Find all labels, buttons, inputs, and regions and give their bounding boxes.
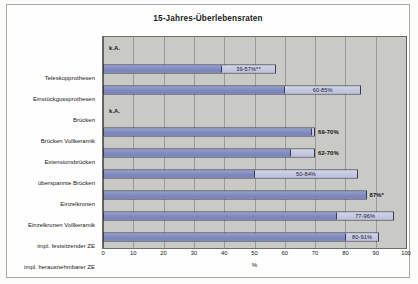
x-tick-label: 100: [401, 250, 411, 256]
bar-segment-low: [104, 65, 221, 72]
category-label: Brücken: [73, 117, 95, 123]
bar-segment-low: [104, 150, 290, 157]
table-row: 69-70%: [103, 121, 406, 142]
bar-value-label: 69-70%: [318, 129, 339, 135]
table-row: 50-84%: [103, 164, 406, 185]
bar-segment-low: [104, 171, 254, 178]
category-label: Teleskopprothesen: [45, 75, 95, 81]
category-label: impl. herausnehmbarer ZE: [24, 264, 95, 270]
category-label: Extensionsbrücken: [44, 159, 95, 165]
gridline-100: [406, 37, 407, 248]
category-label: Einzelkronen: [60, 201, 95, 207]
x-tick-label: 70: [312, 250, 318, 256]
bar-segment-low: [104, 86, 284, 93]
bar: [103, 170, 358, 179]
x-tick-label: 20: [160, 250, 166, 256]
x-tick-label: 30: [191, 250, 197, 256]
table-row: 80-91%: [103, 227, 406, 248]
bar: [103, 191, 367, 200]
bar-segment-low: [104, 128, 311, 135]
bar-segment-low: [104, 192, 366, 199]
page-title: 15-Jahres-Überlebensraten: [7, 14, 409, 23]
table-row: k.A.: [103, 100, 406, 121]
x-tick-label: 40: [221, 250, 227, 256]
category-axis-labels: TeleskopprothesenEinstückgussprothesenBr…: [7, 36, 99, 249]
table-row: 60-85%: [103, 79, 406, 100]
category-label: Brücken Vollkeramik: [41, 138, 95, 144]
table-row: 39-57%**: [103, 58, 406, 79]
x-tick-label: 50: [251, 250, 257, 256]
bar-value-label: 60-85%: [313, 87, 333, 93]
x-tick-label: 90: [372, 250, 378, 256]
x-axis-title: %: [102, 261, 407, 268]
bar-segment-low: [104, 234, 345, 241]
table-row: 62-70%: [103, 143, 406, 164]
bar: [103, 233, 379, 242]
x-tick-label: 0: [101, 250, 104, 256]
bar-value-label: 80-91%: [352, 234, 372, 240]
bar: [103, 127, 315, 136]
bar: [103, 149, 315, 158]
plot-area: k.A.39-57%**60-85%k.A.69-70%62-70%50-84%…: [102, 36, 407, 249]
bar-value-label: 87%*: [370, 192, 384, 198]
category-label: Einzelkronen Vollkeramik: [28, 222, 95, 228]
x-tick-label: 60: [282, 250, 288, 256]
bar-segment-high: [290, 150, 314, 157]
category-label: Einstückgussprothesen: [33, 96, 95, 102]
x-tick-label: 10: [130, 250, 136, 256]
category-label: impl. festsitzender ZE: [37, 243, 95, 249]
no-data-label: k.A.: [109, 108, 120, 114]
no-data-label: k.A.: [109, 45, 120, 51]
bar-value-label: 50-84%: [296, 171, 316, 177]
bar-rows: k.A.39-57%**60-85%k.A.69-70%62-70%50-84%…: [103, 37, 406, 248]
bar-segment-low: [104, 213, 336, 220]
table-row: 87%*: [103, 185, 406, 206]
x-tick-label: 80: [342, 250, 348, 256]
table-row: k.A.: [103, 37, 406, 58]
table-row: 77-96%: [103, 206, 406, 227]
bar: [103, 212, 394, 221]
bar-segment-high: [311, 128, 314, 135]
category-label: überspannte Brücken: [38, 180, 95, 186]
figure-frame: 15-Jahres-Überlebensraten Teleskopprothe…: [6, 4, 410, 278]
bar-value-label: 62-70%: [318, 150, 339, 156]
bar-value-label: 77-96%: [355, 213, 375, 219]
scanned-page: 15-Jahres-Überlebensraten Teleskopprothe…: [0, 0, 418, 284]
bar-value-label: 39-57%**: [236, 66, 260, 72]
